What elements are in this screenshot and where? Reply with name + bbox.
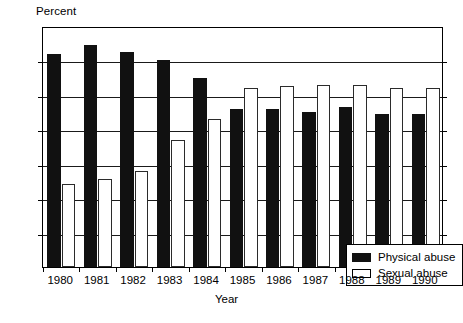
y-tick-mark	[38, 235, 43, 236]
bar-sexual-abuse-1988	[353, 85, 367, 267]
y-tick-mark	[442, 166, 447, 167]
bar-physical-abuse-1987	[302, 112, 316, 267]
x-tick-label: 1989	[376, 274, 402, 286]
y-axis-title: Percent	[36, 5, 76, 17]
legend-swatch-physical-icon	[352, 253, 371, 262]
x-tick-mark	[79, 267, 80, 272]
y-tick-mark	[442, 200, 447, 201]
x-tick-label: 1982	[120, 274, 146, 286]
bar-physical-abuse-1988	[339, 107, 353, 267]
x-tick-mark	[152, 267, 153, 272]
x-tick-label: 1988	[339, 274, 365, 286]
y-tick-mark	[38, 97, 43, 98]
legend-label-physical: Physical abuse	[378, 251, 455, 263]
x-tick-mark	[225, 267, 226, 272]
bar-physical-abuse-1981	[84, 45, 98, 267]
x-axis-title: Year	[0, 293, 453, 305]
y-tick-mark	[442, 131, 447, 132]
bar-physical-abuse-1984	[193, 78, 207, 267]
x-tick-label: 1984	[193, 274, 219, 286]
x-tick-label: 1986	[266, 274, 292, 286]
y-tick-mark	[38, 166, 43, 167]
x-tick-mark	[43, 267, 44, 272]
y-tick-mark	[38, 200, 43, 201]
bar-sexual-abuse-1989	[390, 88, 404, 267]
bar-sexual-abuse-1983	[171, 140, 185, 267]
y-tick-mark	[38, 62, 43, 63]
x-tick-label: 1983	[157, 274, 183, 286]
bar-physical-abuse-1986	[266, 109, 280, 267]
x-tick-mark	[262, 267, 263, 272]
legend-item-sexual-abuse: Sexual abuse	[352, 265, 455, 281]
bar-physical-abuse-1985	[230, 109, 244, 267]
bar-sexual-abuse-1987	[317, 85, 331, 267]
plot-area: Physical abuse Sexual abuse	[42, 27, 443, 268]
y-tick-mark	[442, 97, 447, 98]
y-tick-mark	[442, 62, 447, 63]
x-tick-mark	[335, 267, 336, 272]
y-tick-mark	[442, 235, 447, 236]
y-tick-mark	[38, 131, 43, 132]
x-tick-mark	[116, 267, 117, 272]
x-tick-label: 1981	[84, 274, 110, 286]
bar-physical-abuse-1980	[47, 54, 61, 267]
x-tick-mark	[298, 267, 299, 272]
bar-sexual-abuse-1980	[62, 184, 76, 267]
x-tick-label: 1985	[230, 274, 256, 286]
x-tick-mark	[189, 267, 190, 272]
bar-sexual-abuse-1982	[135, 171, 149, 267]
x-tick-label: 1980	[47, 274, 73, 286]
bar-sexual-abuse-1981	[98, 179, 112, 267]
bar-sexual-abuse-1990	[426, 88, 440, 267]
legend-item-physical-abuse: Physical abuse	[352, 249, 455, 265]
bar-sexual-abuse-1985	[244, 88, 258, 267]
bar-sexual-abuse-1986	[280, 86, 294, 267]
bar-physical-abuse-1983	[157, 60, 171, 267]
x-tick-label: 1987	[303, 274, 329, 286]
bar-physical-abuse-1982	[120, 52, 134, 267]
bars-container	[43, 28, 442, 267]
bar-sexual-abuse-1984	[208, 119, 222, 267]
x-tick-label: 1990	[412, 274, 438, 286]
